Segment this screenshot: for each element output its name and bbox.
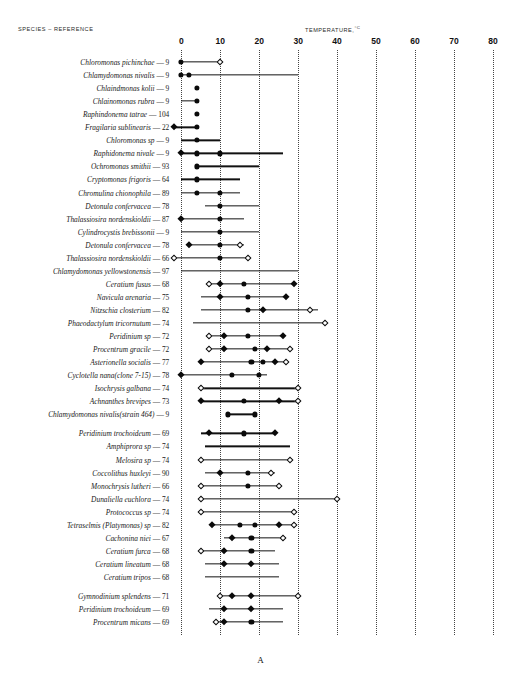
marker-open-diamond: [197, 508, 204, 515]
plot-row: Gymnodinium splendens — 71: [0, 590, 521, 603]
marker-filled-circle: [218, 242, 223, 247]
marker-filled-circle: [253, 347, 258, 352]
plot-row: Dunaliella euchlora — 74: [0, 493, 521, 506]
marker-filled-diamond: [248, 592, 256, 600]
plot-row: Chlainomonas rubra — 9: [0, 95, 521, 108]
marker-filled-diamond: [205, 430, 213, 438]
x-tick-label-30: 30: [293, 36, 302, 46]
plot-row: Coccolithus huxleyi — 90: [0, 467, 521, 480]
row-range-plot: [0, 545, 521, 558]
plot-row: Ochromonas smithii — 93: [0, 160, 521, 173]
range-line: [181, 192, 239, 193]
range-line: [201, 498, 337, 499]
marker-filled-circle: [179, 72, 184, 77]
plot-row: Cylindrocystis brebissonii — 9: [0, 226, 521, 239]
range-line: [205, 205, 260, 206]
plot-row: Detonula confervacea — 78: [0, 239, 521, 252]
range-line: [181, 218, 243, 219]
x-tick-label-60: 60: [410, 36, 419, 46]
marker-open-diamond: [267, 469, 274, 476]
row-range-plot: [0, 395, 521, 408]
row-range-plot: [0, 226, 521, 239]
plot-row: Cachonina niei — 67: [0, 532, 521, 545]
marker-filled-diamond: [209, 521, 217, 529]
row-range-plot: [0, 213, 521, 226]
range-line: [193, 322, 325, 323]
plot-row: Raphindonema tatrae — 104: [0, 108, 521, 121]
figure-panel-a: SPECIES – REFERENCE TEMPERATURE,°C 01020…: [0, 0, 521, 683]
marker-filled-circle: [253, 412, 258, 417]
x-tick-label-50: 50: [371, 36, 380, 46]
marker-filled-circle: [249, 535, 254, 540]
range-line: [174, 257, 247, 258]
range-line: [181, 74, 298, 75]
plot-row: Detonula confervacea — 78: [0, 200, 521, 213]
row-range-plot: [0, 590, 521, 603]
plot-row: Peridinium trochoideum — 69: [0, 427, 521, 440]
row-range-plot: [0, 382, 521, 395]
row-range-plot: [0, 134, 521, 147]
marker-filled-diamond: [259, 306, 267, 314]
row-range-plot: [0, 95, 521, 108]
marker-filled-circle: [186, 72, 191, 77]
plot-row: Procentrum micans — 69: [0, 616, 521, 629]
marker-filled-circle: [194, 190, 199, 195]
marker-open-diamond: [295, 592, 302, 599]
plot-row: Chlamydomonas nivalis — 9: [0, 69, 521, 82]
marker-open-diamond: [171, 254, 178, 261]
marker-filled-circle: [249, 548, 254, 553]
row-range-plot: [0, 480, 521, 493]
range-line: [181, 140, 220, 141]
marker-filled-circle: [218, 151, 223, 156]
marker-filled-diamond: [220, 605, 228, 613]
row-range-plot: [0, 427, 521, 440]
plot-row: Ceratium lineatum — 68: [0, 558, 521, 571]
row-range-plot: [0, 304, 521, 317]
row-range-plot: [0, 317, 521, 330]
row-range-plot: [0, 291, 521, 304]
marker-filled-circle: [257, 373, 262, 378]
marker-open-diamond: [236, 241, 243, 248]
marker-filled-circle: [245, 483, 250, 488]
panel-letter: A: [0, 655, 521, 665]
marker-open-diamond: [291, 521, 298, 528]
plot-row: Chlamydomonas yellowstonensis — 97: [0, 265, 521, 278]
plot-row: Navicula arenaria — 75: [0, 291, 521, 304]
marker-filled-circle: [194, 125, 199, 130]
marker-filled-circle: [225, 412, 230, 417]
marker-open-diamond: [275, 482, 282, 489]
marker-filled-circle: [241, 281, 246, 286]
marker-filled-diamond: [220, 618, 228, 626]
plot-row: Monochrysis lutheri — 66: [0, 480, 521, 493]
range-line: [205, 446, 291, 447]
marker-filled-circle: [218, 190, 223, 195]
row-range-plot: [0, 200, 521, 213]
row-range-plot: [0, 343, 521, 356]
row-range-plot: [0, 519, 521, 532]
row-range-plot: [0, 252, 521, 265]
plot-row: Ceratium furca — 68: [0, 545, 521, 558]
marker-filled-diamond: [177, 215, 185, 223]
plot-row: Achnanthes brevipes — 73: [0, 395, 521, 408]
marker-open-diamond: [213, 619, 220, 626]
marker-filled-diamond: [283, 293, 291, 301]
marker-filled-diamond: [228, 592, 236, 600]
marker-open-diamond: [197, 495, 204, 502]
marker-filled-circle: [218, 255, 223, 260]
marker-filled-circle: [194, 164, 199, 169]
marker-filled-diamond: [228, 534, 236, 542]
marker-open-diamond: [197, 547, 204, 554]
marker-filled-diamond: [279, 332, 287, 340]
marker-filled-circle: [249, 360, 254, 365]
range-line: [201, 485, 279, 486]
row-range-plot: [0, 82, 521, 95]
plot-row: Chloromonas sp — 9: [0, 134, 521, 147]
plot-row: Isochrysis galbana — 74: [0, 382, 521, 395]
marker-filled-circle: [194, 138, 199, 143]
marker-filled-circle: [245, 294, 250, 299]
marker-filled-circle: [218, 216, 223, 221]
range-line: [197, 166, 259, 167]
row-range-plot: [0, 239, 521, 252]
range-line: [201, 459, 291, 460]
plot-row: Phaeodactylum tricornutum — 74: [0, 317, 521, 330]
